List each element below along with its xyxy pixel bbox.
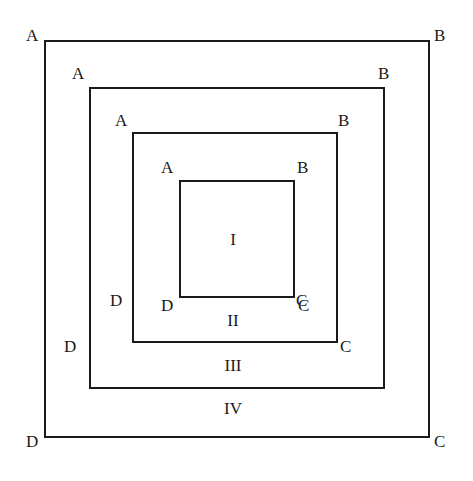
vertex-label-second-c: C	[340, 338, 351, 355]
region-label-three: III	[206, 357, 260, 374]
vertex-label-second-a: A	[72, 65, 84, 82]
vertex-label-inner-c: C	[298, 297, 309, 314]
vertex-label-outer-b: B	[434, 27, 445, 44]
region-label-four: IV	[206, 400, 260, 417]
vertex-label-outer-a: A	[26, 27, 38, 44]
vertex-label-third-b: B	[338, 112, 349, 129]
region-label-one: I	[206, 231, 260, 248]
vertex-label-third-a: A	[115, 112, 127, 129]
vertex-label-outer-c: C	[434, 433, 445, 450]
vertex-label-outer-d: D	[26, 433, 38, 450]
region-label-two: II	[206, 312, 260, 329]
nested-squares-figure: A B C D A B C D A B C D A B C D I II III…	[0, 0, 473, 481]
vertex-label-inner-d: D	[161, 297, 173, 314]
vertex-label-inner-b: B	[297, 159, 308, 176]
vertex-label-inner-a: A	[161, 159, 173, 176]
vertex-label-second-b: B	[378, 65, 389, 82]
vertex-label-second-d: D	[64, 338, 76, 355]
vertex-label-third-d: D	[110, 292, 122, 309]
